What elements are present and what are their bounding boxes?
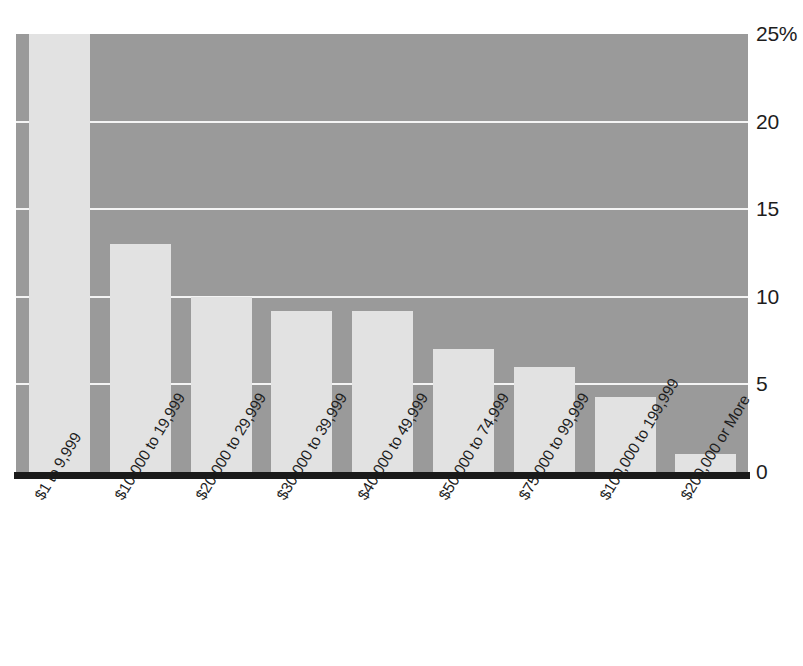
bar-chart: 0510152025% $1 to 9,999$10,000 to 19,999… xyxy=(0,0,803,666)
bar[interactable] xyxy=(29,34,90,472)
plot-area xyxy=(16,34,748,472)
y-axis-tick-label: 25% xyxy=(756,22,797,46)
y-axis-tick-label: 10 xyxy=(756,285,779,309)
chart-title xyxy=(16,0,756,1)
y-axis-tick-label: 15 xyxy=(756,197,779,221)
bars xyxy=(16,34,748,472)
x-axis-tick-labels: $1 to 9,999$10,000 to 19,999$20,000 to 2… xyxy=(0,472,803,666)
y-axis-tick-labels: 0510152025% xyxy=(756,0,803,500)
y-axis-tick-label: 20 xyxy=(756,110,779,134)
y-axis-tick-label: 5 xyxy=(756,372,767,396)
